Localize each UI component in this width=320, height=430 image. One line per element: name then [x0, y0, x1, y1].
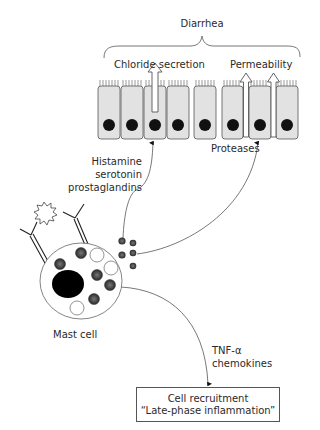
epithelial-cell [167, 86, 189, 139]
diarrhea-label: Diarrhea [170, 18, 234, 30]
brace [104, 36, 300, 58]
chloride-secretion-label: Chloride secretion [114, 59, 205, 71]
outcome-line2: “Late-phase inflammation” [141, 405, 276, 417]
microvilli [100, 80, 296, 86]
epithelial-cell [276, 86, 298, 139]
tnf-alpha-label: TNF-α [212, 345, 242, 357]
mast-cell-label: Mast cell [53, 329, 97, 341]
allergen-icon [34, 202, 57, 225]
permeability-label: Permeability [230, 59, 292, 71]
tnf-arrow [121, 287, 208, 384]
proteases-label: Proteases [211, 143, 260, 155]
protease-arrow [137, 143, 258, 254]
antibody-icon [63, 204, 88, 245]
epithelial-cell [249, 86, 271, 139]
prostaglandins-label: prostaglandins [60, 182, 142, 194]
epithelium [98, 80, 298, 139]
mast-cell [40, 243, 122, 319]
chemokines-label: chemokines [212, 358, 272, 370]
epithelial-cell [222, 86, 243, 139]
antibody-icon [20, 222, 49, 265]
outcome-line1: Cell recruitment [168, 393, 249, 405]
released-granules [118, 237, 136, 269]
outcome-box: Cell recruitment “Late-phase inflammatio… [136, 387, 280, 422]
histamine-label: Histamine [60, 156, 142, 168]
epithelial-cell [121, 86, 143, 139]
serotonin-label: serotonin [60, 169, 142, 181]
epithelial-cell [98, 86, 120, 139]
epithelial-cell [194, 86, 216, 139]
